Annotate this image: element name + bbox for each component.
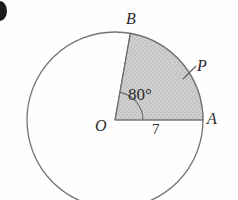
geometry-figure: B P A O 7 80° — [0, 0, 238, 200]
label-point-o: O — [95, 118, 107, 134]
label-point-b: B — [126, 11, 136, 27]
label-central-angle: 80° — [128, 86, 152, 103]
label-point-p: P — [197, 58, 207, 74]
label-radius-value: 7 — [152, 122, 160, 137]
circle-sector-svg — [0, 0, 238, 200]
label-point-a: A — [207, 111, 217, 127]
